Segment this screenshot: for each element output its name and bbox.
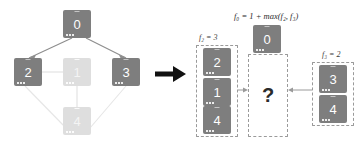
left-group-label: f₂ = 3 — [199, 33, 217, 42]
left-group-item-2-label: 4 — [213, 114, 220, 127]
node-dots-icon — [17, 82, 25, 84]
graph-node-3[interactable]: 3 — [112, 58, 140, 86]
left-group-item-0-label: 2 — [213, 56, 220, 69]
node-dots-icon — [66, 34, 74, 36]
graph-node-1-label: 1 — [73, 66, 80, 79]
recursion-node-0-label: 0 — [263, 33, 270, 46]
node-tick-top-icon — [265, 26, 270, 27]
graph-node-4-label: 4 — [73, 115, 80, 128]
left-group-item-1[interactable]: 1 — [203, 78, 231, 106]
graph-node-1[interactable]: 1 — [63, 58, 91, 86]
left-group-item-1-label: 1 — [213, 86, 220, 99]
node-tick-top-icon — [26, 59, 31, 60]
node-dots-icon — [115, 82, 123, 84]
right-group-item-1-label: 4 — [329, 103, 336, 116]
right-group-item-1[interactable]: 4 — [319, 95, 347, 123]
right-group-label: f₃ = 2 — [322, 50, 340, 59]
node-tick-top-icon — [331, 96, 336, 97]
node-dots-icon — [206, 102, 214, 104]
figure-canvas: 0 2 1 3 4 f₀ = 1 + max(f₂, f₃) 0 f — [0, 0, 361, 150]
graph-node-3-label: 3 — [122, 66, 129, 79]
node-tick-top-icon — [215, 107, 220, 108]
node-dots-icon — [206, 72, 214, 74]
placeholder-question-mark: ? — [248, 54, 288, 137]
node-tick-top-icon — [331, 66, 336, 67]
node-dots-icon — [206, 130, 214, 132]
node-dots-icon — [66, 82, 74, 84]
node-dots-icon — [256, 49, 264, 51]
right-group-item-0-label: 3 — [329, 73, 336, 86]
left-group-item-2[interactable]: 4 — [203, 106, 231, 134]
left-group-item-0[interactable]: 2 — [203, 48, 231, 76]
graph-node-0-label: 0 — [73, 18, 80, 31]
node-tick-top-icon — [75, 11, 80, 12]
node-tick-top-icon — [215, 79, 220, 80]
recursion-formula: f₀ = 1 + max(f₂, f₃) — [234, 11, 298, 21]
node-dots-icon — [66, 131, 74, 133]
node-dots-icon — [322, 119, 330, 121]
graph-node-0[interactable]: 0 — [63, 10, 91, 38]
right-group-item-0[interactable]: 3 — [319, 65, 347, 93]
node-tick-top-icon — [215, 49, 220, 50]
graph-node-2-label: 2 — [24, 66, 31, 79]
node-tick-top-icon — [124, 59, 129, 60]
node-tick-top-icon — [75, 59, 80, 60]
graph-node-4[interactable]: 4 — [63, 107, 91, 135]
recursion-node-0[interactable]: 0 — [253, 25, 281, 53]
node-tick-top-icon — [75, 108, 80, 109]
graph-node-2[interactable]: 2 — [14, 58, 42, 86]
group-connectors — [0, 0, 361, 150]
connector-right-arrowhead-icon — [288, 88, 293, 93]
node-dots-icon — [322, 89, 330, 91]
